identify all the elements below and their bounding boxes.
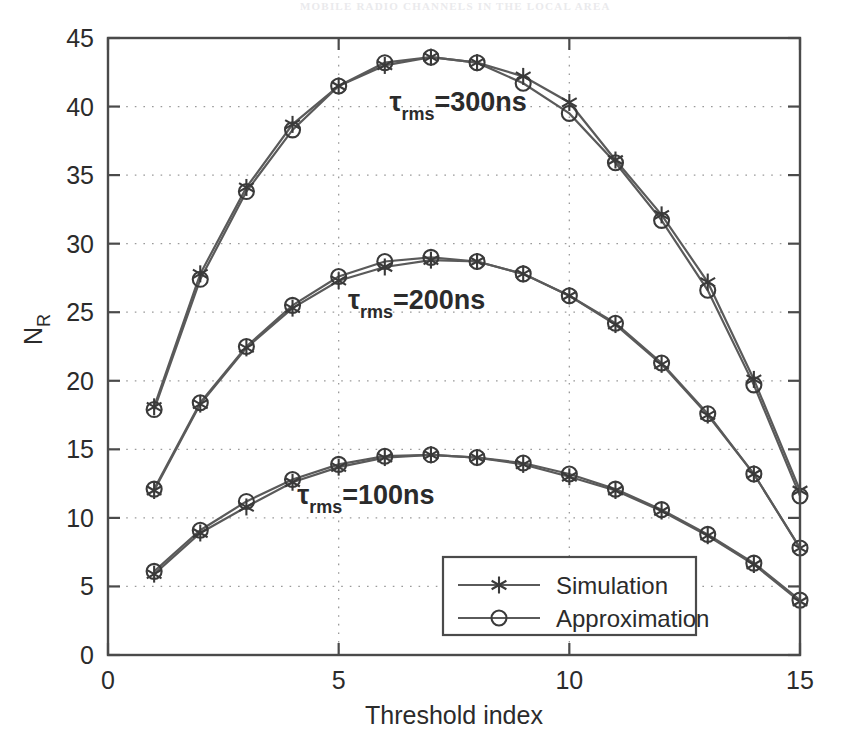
y-axis-tick-label: 5	[80, 572, 94, 600]
y-axis-tick-label: 35	[66, 161, 94, 189]
annotation-tau-100: τrms=100ns	[297, 480, 434, 517]
y-axis-title: NR	[19, 314, 54, 345]
svg-text:τrms=100ns: τrms=100ns	[297, 480, 434, 517]
x-axis-tick-labels: 051015	[101, 666, 814, 694]
curves-layer	[154, 57, 800, 601]
x-axis-tick-label: 0	[101, 666, 115, 694]
svg-text:τrms=200ns: τrms=200ns	[348, 285, 485, 322]
x-axis-tick-label: 15	[786, 666, 814, 694]
annotation-tau-200: τrms=200ns	[348, 285, 485, 322]
y-axis-tick-label: 15	[66, 435, 94, 463]
legend-label: Simulation	[556, 572, 668, 599]
x-axis-tick-label: 5	[332, 666, 346, 694]
y-axis-tick-label: 30	[66, 230, 94, 258]
y-axis-tick-label: 40	[66, 93, 94, 121]
data-point-asterisk	[147, 398, 162, 415]
y-axis-tick-label: 20	[66, 367, 94, 395]
y-axis-tick-label: 0	[80, 641, 94, 669]
curve-annotations: τrms=300nsτrms=200nsτrms=100ns	[297, 87, 527, 518]
chart-svg: 051015202530354045 051015 τrms=300nsτrms…	[0, 0, 842, 748]
markers-layer	[147, 49, 808, 610]
x-axis-title: Threshold index	[365, 701, 543, 729]
chart-figure: 051015202530354045 051015 τrms=300nsτrms…	[0, 0, 842, 748]
y-axis-tick-label: 10	[66, 504, 94, 532]
svg-text:NR: NR	[19, 314, 54, 345]
y-axis-tick-label: 25	[66, 298, 94, 326]
y-axis-tick-labels: 051015202530354045	[66, 24, 94, 669]
svg-text:τrms=300ns: τrms=300ns	[389, 87, 526, 124]
annotation-tau-300: τrms=300ns	[389, 87, 526, 124]
y-axis-tick-label: 45	[66, 24, 94, 52]
chart-legend[interactable]: SimulationApproximation	[443, 557, 709, 635]
x-axis-tick-label: 10	[555, 666, 583, 694]
legend-label: Approximation	[556, 605, 709, 632]
curve-asterisk	[154, 57, 800, 490]
